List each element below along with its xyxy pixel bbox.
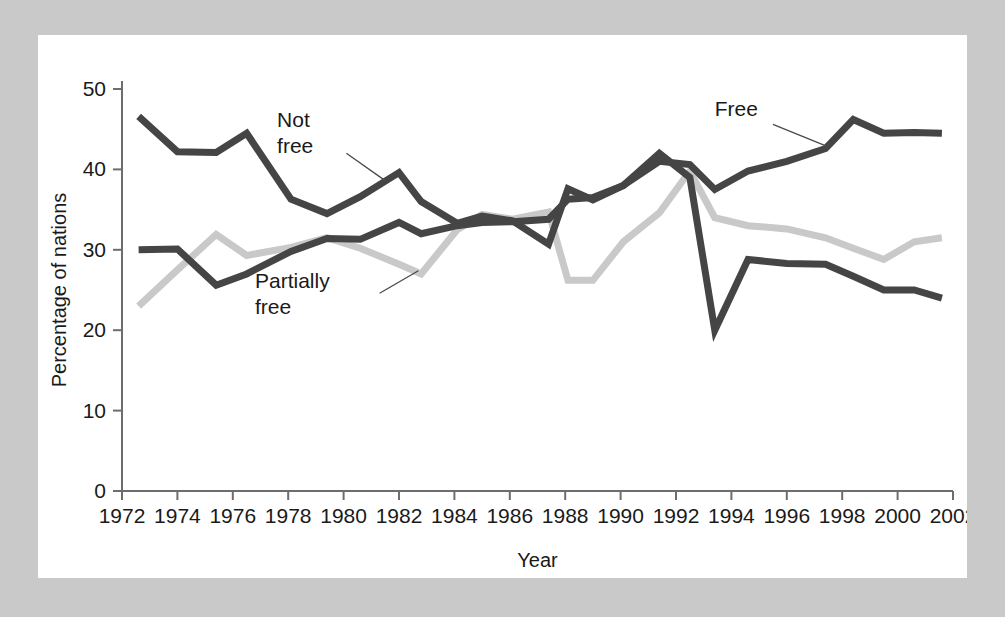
x-tick-label: 2000 xyxy=(874,504,921,527)
chart-panel: 0102030405019721974197619781980198219841… xyxy=(38,35,967,578)
annotation-free: Free xyxy=(715,97,829,147)
annotation-label-partially-free: free xyxy=(255,295,291,318)
y-tick-label: 10 xyxy=(83,399,106,422)
x-tick-label: 1972 xyxy=(99,504,146,527)
line-chart: 0102030405019721974197619781980198219841… xyxy=(38,35,967,578)
y-tick-label: 40 xyxy=(83,157,106,180)
y-tick-label: 30 xyxy=(83,238,106,261)
figure-frame: 0102030405019721974197619781980198219841… xyxy=(0,0,1005,617)
y-axis-title: Percentage of nations xyxy=(48,193,70,388)
y-tick-label: 20 xyxy=(83,318,106,341)
x-tick-label: 1992 xyxy=(653,504,700,527)
y-tick-label: 0 xyxy=(94,479,106,502)
x-tick-label: 1976 xyxy=(209,504,256,527)
x-tick-label: 2002 xyxy=(930,504,967,527)
x-tick-label: 1990 xyxy=(597,504,644,527)
x-tick-label: 1988 xyxy=(542,504,589,527)
x-tick-label: 1984 xyxy=(431,504,478,527)
annotation-label-not-free: free xyxy=(277,134,313,157)
annotation-leader-free xyxy=(773,124,828,147)
x-tick-label: 1998 xyxy=(819,504,866,527)
x-tick-label: 1980 xyxy=(320,504,367,527)
x-tick-label: 1996 xyxy=(763,504,810,527)
annotation-label-free: Free xyxy=(715,97,758,120)
y-tick-label: 50 xyxy=(83,77,106,100)
annotation-not-free: Notfree xyxy=(277,108,385,181)
annotation-leader-partially-free xyxy=(380,271,419,294)
x-tick-label: 1982 xyxy=(376,504,423,527)
x-tick-label: 1974 xyxy=(154,504,201,527)
annotation-label-not-free: Not xyxy=(277,108,310,131)
annotation-leader-not-free xyxy=(346,153,385,180)
annotation-label-partially-free: Partially xyxy=(255,269,330,292)
x-axis-title: Year xyxy=(517,549,558,571)
x-tick-label: 1986 xyxy=(486,504,533,527)
x-tick-label: 1978 xyxy=(265,504,312,527)
x-tick-label: 1994 xyxy=(708,504,755,527)
annotation-partially-free: Partiallyfree xyxy=(255,269,418,318)
